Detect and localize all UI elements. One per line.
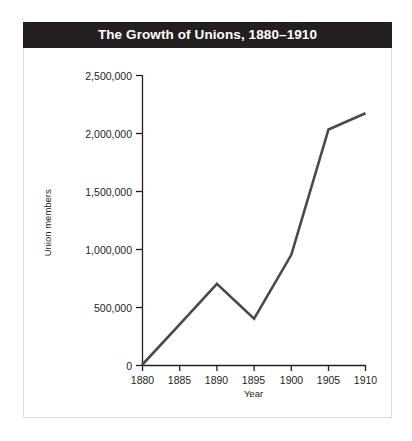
y-tick-label-500000: 500,000 <box>58 303 132 314</box>
y-axis-title: Union members <box>43 159 53 287</box>
y-tick-label-1000000: 1,000,000 <box>58 245 132 256</box>
x-tick-label-1910: 1910 <box>346 375 385 386</box>
x-axis-title: Year <box>142 389 365 399</box>
x-tick-label-1905: 1905 <box>309 375 348 386</box>
chart-figure: The Growth of Unions, 1880–1910 <box>0 0 412 441</box>
x-tick-label-1900: 1900 <box>272 375 311 386</box>
x-tick-label-1880: 1880 <box>123 375 162 386</box>
y-tick-label-2000000: 2,000,000 <box>58 129 132 140</box>
y-tick-marks <box>136 76 142 366</box>
x-tick-label-1885: 1885 <box>160 375 199 386</box>
x-tick-label-1890: 1890 <box>197 375 236 386</box>
data-series-line <box>142 113 366 365</box>
y-tick-label-1500000: 1,500,000 <box>58 187 132 198</box>
y-tick-label-0: 0 <box>58 361 132 372</box>
y-tick-label-2500000: 2,500,000 <box>58 71 132 82</box>
x-tick-label-1895: 1895 <box>234 375 273 386</box>
